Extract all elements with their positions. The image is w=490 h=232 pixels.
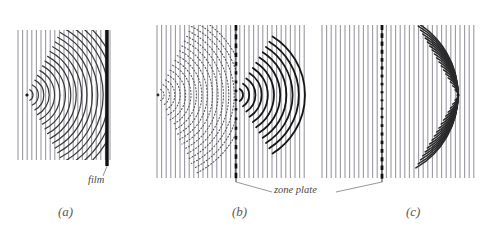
point-source-a	[25, 93, 28, 96]
wavefront-arc	[165, 80, 174, 110]
zone-plate-label: zone plate	[274, 184, 317, 195]
wavefront-arc	[175, 60, 197, 129]
wavefront-arc	[170, 70, 186, 120]
film-strip	[105, 30, 108, 166]
film-barrier	[105, 30, 108, 166]
film-label: film	[88, 174, 104, 185]
plane-wave-field-b	[157, 25, 304, 178]
focal-point-c	[456, 93, 459, 96]
zone-plate-barrier-c	[381, 25, 384, 182]
plane-wave-field-c	[322, 25, 474, 178]
panel-caption-b: (b)	[232, 204, 247, 220]
panel-caption-a: (a)	[58, 204, 73, 220]
wavefront-arc	[189, 31, 229, 158]
wave-optics-figure	[0, 0, 490, 232]
panel-a	[18, 13, 119, 176]
zone-plate-leader-b	[236, 182, 272, 192]
plane-wave-field-a	[18, 30, 110, 160]
panel-caption-c: (c)	[406, 204, 420, 220]
zone-plate-leader-c	[336, 182, 382, 192]
panel-b	[157, 17, 305, 192]
panel-c	[322, 22, 474, 192]
point-source-b	[157, 94, 160, 97]
